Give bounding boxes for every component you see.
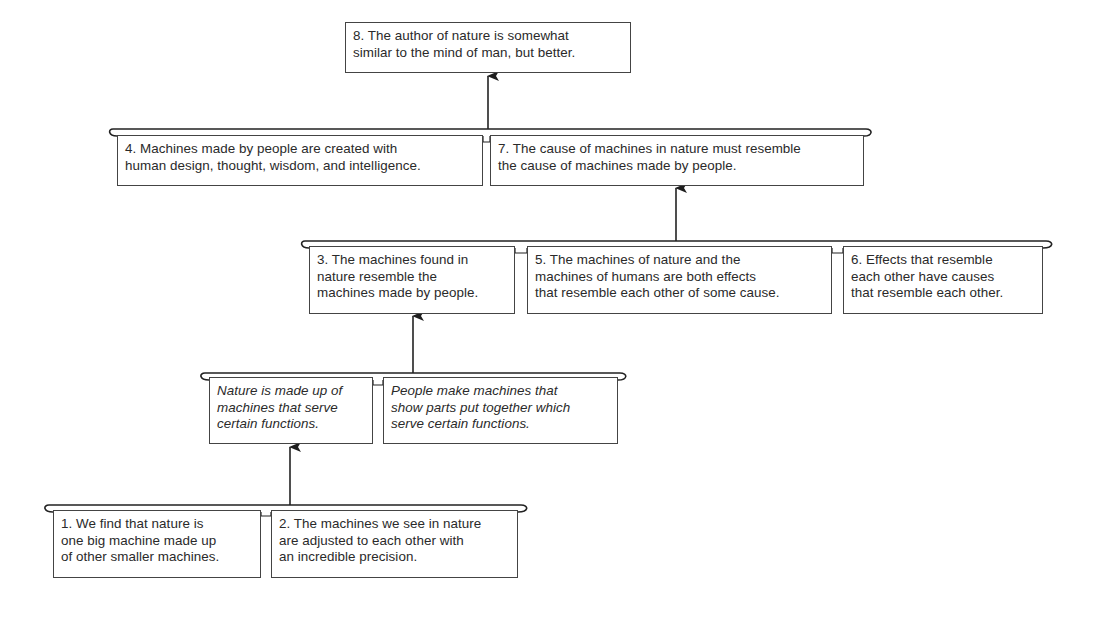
implicit-premise-b-box: People make machines that show parts put… bbox=[383, 377, 618, 444]
premise-7-box: 7. The cause of machines in nature must … bbox=[490, 135, 864, 186]
premise-6-box: 6. Effects that resemble each other have… bbox=[843, 246, 1043, 314]
premise-2-box: 2. The machines we see in nature are adj… bbox=[271, 510, 518, 578]
implicit-premise-a-box: Nature is made up of machines that serve… bbox=[209, 377, 373, 444]
premise-3-box: 3. The machines found in nature resemble… bbox=[309, 246, 515, 314]
premise-1-box: 1. We find that nature is one big machin… bbox=[53, 510, 261, 578]
premise-4-box: 4. Machines made by people are created w… bbox=[117, 135, 483, 186]
claim-8-box: 8. The author of nature is somewhat simi… bbox=[345, 22, 631, 73]
premise-5-box: 5. The machines of nature and the machin… bbox=[527, 246, 832, 314]
